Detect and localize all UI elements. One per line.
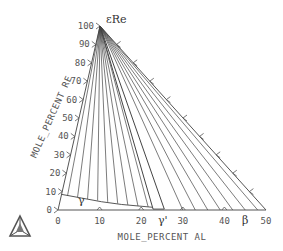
tie-line-beta (100, 26, 233, 210)
tie-line-gamma (100, 26, 138, 206)
left-tick-label: 90 (79, 39, 90, 49)
left-tick-label: 100 (78, 21, 94, 31)
left-tick-label: 20 (50, 168, 61, 178)
tie-line-beta (100, 26, 258, 210)
phase-label-epsilon-re: εRe (106, 13, 127, 26)
left-tick-label: 60 (66, 95, 77, 105)
tie-line-gamma (68, 26, 100, 196)
left-tick-label: 80 (75, 58, 86, 68)
left-tick (54, 207, 58, 213)
bottom-tick-label: 20 (136, 216, 147, 226)
bottom-tick-label: 40 (219, 216, 230, 226)
bottom-tick-label: 10 (94, 216, 105, 226)
tie-line-gamma-prime (100, 26, 153, 209)
phase-label-gamma: γ (78, 194, 85, 207)
left-tick-label: 40 (58, 131, 69, 141)
bottom-tick-label: 0 (55, 216, 60, 226)
gamma-phase-boundary (62, 194, 153, 207)
tie-line-beta (100, 26, 245, 210)
left-tick-label: 50 (62, 113, 73, 123)
thermo-calc-logo-icon (10, 216, 30, 236)
left-tick-label: 30 (54, 150, 65, 160)
bottom-tick-label: 30 (177, 216, 188, 226)
tie-line-beta (100, 26, 220, 210)
phase-label-gamma-prime: γ' (158, 214, 168, 227)
tie-line-gamma-prime (100, 26, 164, 209)
bottom-tick-label: 50 (261, 216, 272, 226)
left-tick-label: 10 (45, 187, 56, 197)
ternary-diagram: 010203040500102030405060708090100MOLE_PE… (0, 0, 283, 251)
tie-line-beta (100, 26, 208, 210)
phase-label-beta: β (242, 214, 248, 227)
bottom-axis-title: MOLE_PERCENT AL (118, 232, 207, 242)
left-tick-label: 0 (47, 205, 52, 215)
